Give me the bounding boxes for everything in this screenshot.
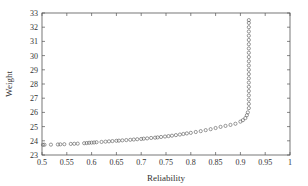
data-point [178,133,181,136]
x-tick-label: 0.6 [87,158,97,167]
y-tick-label: 31 [30,37,38,46]
data-point [247,90,250,93]
data-point [104,140,107,143]
x-tick-label: 0.8 [186,158,196,167]
data-point [170,134,173,137]
x-axis-label: Reliability [147,173,185,183]
x-tick-label: 0.75 [159,158,173,167]
y-tick-label: 30 [30,52,38,61]
data-point [111,139,114,142]
data-point [100,140,103,143]
data-point [132,138,135,141]
data-point [146,137,149,140]
data-point [247,98,250,101]
data-point [247,60,250,63]
x-tick-label: 0.5 [37,158,47,167]
y-tick-label: 23 [30,151,38,160]
data-point [107,140,110,143]
data-point [247,38,250,41]
data-point [204,129,207,132]
data-point [167,135,170,138]
x-tick-label: 1 [288,158,292,167]
data-point [150,136,153,139]
data-point [247,85,250,88]
data-point [182,132,185,135]
data-point [247,102,250,105]
data-point [247,107,250,110]
data-point [189,131,192,134]
x-tick-label: 0.55 [60,158,74,167]
data-point [194,130,197,133]
scatter-chart: 0.50.550.60.650.70.750.80.850.90.9512324… [0,0,308,186]
data-point [214,126,217,129]
data-point [163,135,166,138]
data-point [136,138,139,141]
data-point [247,26,250,29]
x-tick-label: 0.85 [209,158,223,167]
x-tick-label: 0.65 [109,158,123,167]
data-point [229,123,232,126]
data-point [76,142,79,145]
data-point [247,81,250,84]
y-tick-label: 24 [30,137,38,146]
data-point [121,139,124,142]
y-tick-label: 33 [30,9,38,18]
data-point [247,77,250,80]
data-point [209,128,212,131]
data-point [73,142,76,145]
x-tick-label: 0.9 [235,158,245,167]
data-point [159,135,162,138]
data-point [199,130,202,133]
data-point [49,143,52,146]
data-point [247,51,250,54]
x-tick-label: 0.7 [136,158,146,167]
data-point [247,64,250,67]
data-point [246,111,249,114]
y-tick-label: 29 [30,66,38,75]
data-points [41,19,250,147]
y-tick-label: 27 [30,94,38,103]
y-tick-label: 26 [30,108,38,117]
data-point [174,134,177,137]
y-tick-label: 32 [30,23,38,32]
data-point [247,72,250,75]
data-point [69,142,72,145]
data-point [63,143,66,146]
data-point [247,43,250,46]
data-point [234,122,237,125]
y-tick-label: 25 [30,123,38,132]
data-point [125,138,128,141]
data-point [247,34,250,37]
data-point [224,124,227,127]
data-point [247,94,250,97]
data-point [129,138,132,141]
y-axis-label: Weight [4,71,14,97]
data-point [247,47,250,50]
x-tick-label: 0.95 [258,158,272,167]
y-tick-label: 28 [30,80,38,89]
data-point [247,68,250,71]
plot-frame [42,13,290,155]
data-point [219,125,222,128]
data-point [185,132,188,135]
data-point [247,30,250,33]
data-point [247,55,250,58]
